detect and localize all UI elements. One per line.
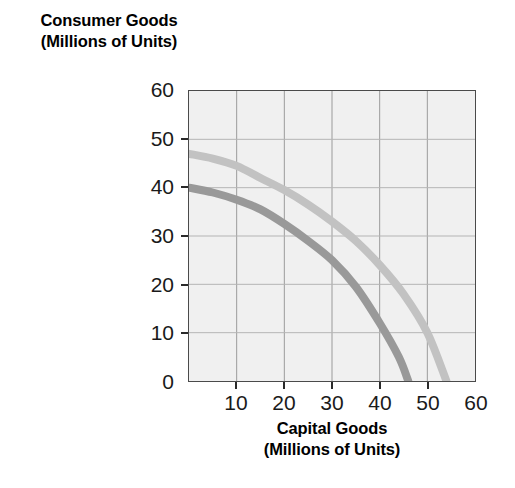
y-tick-label: 60: [134, 79, 174, 100]
x-tick-label: 20: [262, 392, 306, 413]
y-tick-label: 20: [134, 274, 174, 295]
y-axis-title-line1: Consumer Goods: [40, 11, 177, 29]
y-tick-mark: [181, 332, 188, 334]
y-tick-label: 10: [134, 322, 174, 343]
y-tick-mark: [181, 284, 188, 286]
x-tick-label: 40: [358, 392, 402, 413]
x-tick-label: 50: [406, 392, 450, 413]
x-tick-mark: [331, 382, 333, 389]
x-axis-title-line1: Capital Goods: [277, 419, 388, 437]
y-tick-mark: [181, 235, 188, 237]
ppf-chart-figure: Consumer Goods (Millions of Units) 01020…: [0, 0, 515, 488]
x-tick-label: 30: [310, 392, 354, 413]
y-axis-title: Consumer Goods (Millions of Units): [4, 10, 214, 52]
plot-canvas: [189, 91, 475, 381]
y-axis-title-line2: (Millions of Units): [4, 31, 214, 52]
x-tick-label: 60: [454, 392, 498, 413]
x-tick-mark: [235, 382, 237, 389]
x-tick-mark: [427, 382, 429, 389]
plot-area: [188, 90, 476, 382]
y-tick-label: 40: [134, 176, 174, 197]
x-tick-label: 10: [214, 392, 258, 413]
x-axis-title-line2: (Millions of Units): [188, 439, 476, 460]
x-tick-mark: [283, 382, 285, 389]
y-tick-mark: [181, 186, 188, 188]
y-tick-label: 50: [134, 128, 174, 149]
y-tick-label: 30: [134, 225, 174, 246]
x-axis-title: Capital Goods (Millions of Units): [188, 418, 476, 460]
y-tick-mark: [181, 138, 188, 140]
x-tick-mark: [379, 382, 381, 389]
y-tick-label: 0: [134, 371, 174, 392]
